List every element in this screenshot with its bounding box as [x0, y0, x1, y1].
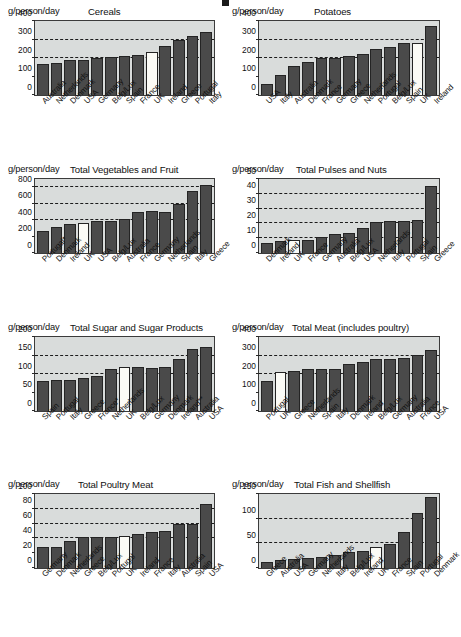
y-tick-label: 20	[247, 211, 256, 219]
bar	[37, 381, 49, 411]
y-tick-label: 10	[247, 226, 256, 234]
chart-panel-vegetables-fruit: g/person/day Total Vegetables and Fruit …	[0, 158, 224, 316]
y-tick-label: 400	[18, 8, 32, 16]
y-tick-label: 200	[18, 224, 32, 232]
bar-slot	[260, 337, 274, 411]
x-axis-labels: SpainPortugalItalyGreeceFrance*Netherlan…	[34, 414, 215, 468]
bar-slot	[274, 21, 288, 95]
chart-title: Total Vegetables and Fruit	[70, 164, 178, 175]
y-tick-label: 100	[242, 380, 256, 388]
y-tick-label: 600	[18, 191, 32, 199]
chart-title: Potatoes	[314, 6, 351, 17]
bar-slot	[411, 494, 425, 568]
y-tick-label: 200	[18, 324, 32, 332]
bar	[132, 534, 144, 568]
chart-header: g/person/day Potatoes	[224, 6, 449, 19]
y-tick-label: 80	[23, 496, 32, 504]
y-tick-label: 60	[23, 511, 32, 519]
bar-slot	[90, 179, 104, 253]
bar-slot	[36, 21, 50, 95]
y-tick-label: 0	[27, 240, 32, 248]
y-tick-label: 400	[242, 324, 256, 332]
y-tick-label: 50	[23, 380, 32, 388]
bar-slot	[199, 179, 213, 253]
y-tick-label: 800	[18, 175, 32, 183]
bar-slot	[172, 494, 186, 568]
y-tick-label: 150	[18, 343, 32, 351]
chart-title: Total Fish and Shellfish	[294, 479, 390, 490]
y-axis-unit-label: g/person/day	[8, 6, 59, 16]
y-tick-label: 200	[242, 45, 256, 53]
bar	[384, 544, 396, 568]
bar	[261, 381, 273, 411]
y-axis-unit-label: g/person/day	[232, 322, 283, 332]
x-axis-labels: DenmarkIrelandUKFranceGermanyAustraliaBe…	[258, 256, 440, 310]
bar-slot	[342, 337, 356, 411]
bar-slot	[36, 494, 50, 568]
y-axis-unit-label: g/person/day	[8, 322, 59, 332]
y-tick-label: 400	[18, 208, 32, 216]
bar	[37, 64, 49, 95]
chart-title: Total Poultry Meat	[78, 479, 153, 490]
x-axis-labels: USAItalyAustraliaDenmarkFranceGermanyGre…	[258, 98, 440, 152]
chart-header: g/person/day Total Fish and Shellfish	[224, 479, 449, 492]
x-axis-labels: PortugalUKGreeceNetherlandsSpainItalyDen…	[258, 414, 440, 468]
bar	[91, 221, 103, 253]
y-tick-label: 100	[242, 64, 256, 72]
bar	[425, 26, 437, 95]
bar-slot	[260, 494, 274, 568]
y-tick-label: 200	[242, 361, 256, 369]
y-tick-label: 0	[251, 555, 256, 563]
chart-header: g/person/day Total Poultry Meat	[0, 479, 224, 492]
y-tick-label: 100	[18, 361, 32, 369]
bar-slot	[104, 179, 118, 253]
y-tick-label: 400	[242, 8, 256, 16]
bar-slot	[383, 494, 397, 568]
bar-slot	[301, 179, 315, 253]
chart-panel-cereals: g/person/day Cereals 0100200300400 Austr…	[0, 0, 224, 158]
y-tick-label: 40	[247, 181, 256, 189]
bar	[200, 185, 212, 253]
chart-panel-fish-shellfish: g/person/day Total Fish and Shellfish 05…	[224, 473, 449, 637]
y-axis-unit-label: g/person/day	[232, 164, 283, 174]
bar-slot	[158, 21, 172, 95]
bar	[288, 371, 300, 411]
x-axis-labels: Portugal*DenmarkIrelandUKUSABelg/LuxAust…	[34, 256, 215, 310]
y-axis-unit-label: g/person/day	[8, 164, 59, 174]
chart-panel-potatoes: g/person/day Potatoes 0100200300400 USAI…	[224, 0, 449, 158]
chart-panel-poultry: g/person/day Total Poultry Meat 02040608…	[0, 473, 224, 637]
x-axis-labels: GreeceAustraliaUSAGermanyNetherlandsItal…	[258, 571, 440, 625]
y-tick-label: 0	[251, 240, 256, 248]
chart-header: g/person/day Cereals	[0, 6, 224, 19]
y-tick-label: 0	[27, 555, 32, 563]
chart-title: Total Sugar and Sugar Products	[70, 322, 203, 333]
y-axis-unit-label: g/person/day	[232, 479, 283, 489]
bar-slot	[260, 179, 274, 253]
y-tick-label: 0	[251, 82, 256, 90]
bar-slot	[36, 179, 50, 253]
bar-series	[259, 494, 439, 568]
chart-header: g/person/day Total Sugar and Sugar Produ…	[0, 322, 224, 335]
y-tick-label: 50	[247, 166, 256, 174]
y-tick-label: 300	[242, 343, 256, 351]
x-axis-labels: GermanyDenmarkNetherlandsGreeceBelg/LuxP…	[34, 571, 215, 625]
chart-title: Cereals	[88, 6, 120, 17]
y-tick-label: 300	[18, 27, 32, 35]
y-axis-unit-label: g/person/day	[232, 6, 283, 16]
y-tick-label: 100	[18, 64, 32, 72]
chart-title: Total Pulses and Nuts	[296, 164, 387, 175]
y-tick-label: 100	[242, 506, 256, 514]
x-axis-labels: AustraliaNetherlandsDenmarkUSAGermanyBel…	[34, 98, 215, 152]
bar	[343, 364, 355, 411]
y-tick-label: 0	[27, 82, 32, 90]
y-tick-label: 50	[247, 531, 256, 539]
chart-header: g/person/day Total Pulses and Nuts	[224, 164, 449, 177]
y-tick-label: 100	[18, 481, 32, 489]
chart-header: g/person/day Total Meat (includes poultr…	[224, 322, 449, 335]
chart-panel-pulses-nuts: g/person/day Total Pulses and Nuts 01020…	[224, 158, 449, 316]
y-tick-label: 0	[251, 398, 256, 406]
y-tick-label: 300	[242, 27, 256, 35]
bar-slot	[260, 21, 274, 95]
y-tick-label: 30	[247, 196, 256, 204]
